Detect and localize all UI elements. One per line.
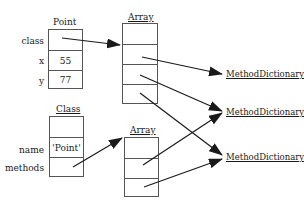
arrow-array-slot-to-method-dictionary [140,93,222,155]
arrow-array-slot-to-method-dictionary [143,113,222,165]
arrow-point-class-to-array [62,38,120,45]
arrow-array-slot-to-method-dictionary [142,57,222,74]
arrow-array-slot-to-method-dictionary [144,159,222,187]
arrow-class-methods-to-array [73,138,122,167]
arrow-array-slot-to-method-dictionary [140,75,222,111]
pointer-arrows [0,0,304,206]
